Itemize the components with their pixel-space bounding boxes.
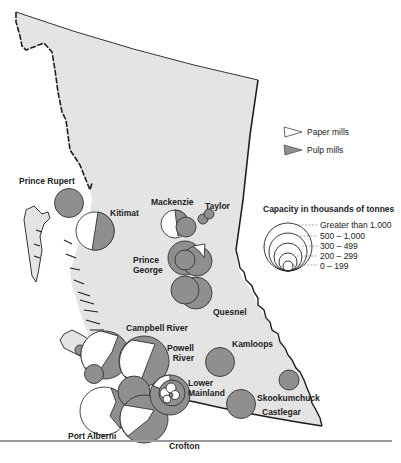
mill-skookumchuck <box>279 370 299 390</box>
mill-prince-george <box>175 250 195 270</box>
label-mackenzie: Mackenzie <box>151 197 194 207</box>
mill-kamloops <box>206 348 235 377</box>
label-lower-mainland-line2: Mainland <box>188 388 225 398</box>
label-prince-george-line1: Prince <box>133 255 163 265</box>
label-castlegar: Castlegar <box>262 407 301 417</box>
capacity-class-4: 200 – 299 <box>320 251 358 261</box>
label-prince-rupert: Prince Rupert <box>19 176 75 186</box>
label-powell-river-line1: Powell <box>167 343 194 353</box>
legend-pulp-mills: Pulp mills <box>307 145 343 155</box>
label-lower-mainland-line1: Lower <box>188 378 225 388</box>
bottom-rule <box>0 440 392 442</box>
mill-prince-rupert <box>55 189 84 218</box>
label-campbell-river: Campbell River <box>126 323 188 333</box>
label-prince-george-line2: George <box>133 265 163 275</box>
legend-paper-mills: Paper mills <box>307 127 349 137</box>
label-skookumchuck: Skookumchuck <box>257 393 320 403</box>
label-lower-mainland: Lower Mainland <box>188 378 225 398</box>
paper-mill-triangle-icon <box>284 127 302 137</box>
label-kitimat: Kitimat <box>110 208 139 218</box>
mill-quesnel <box>171 276 199 304</box>
mill-mackenzie <box>176 217 196 237</box>
label-powell-river-line2: River <box>167 353 194 363</box>
label-prince-george: Prince George <box>133 255 163 275</box>
label-quesnel: Quesnel <box>213 307 247 317</box>
capacity-class-2: 500 – 1,000 <box>320 231 365 241</box>
haida-gwaii <box>24 206 50 282</box>
label-kamloops: Kamloops <box>232 339 273 349</box>
capacity-class-3: 300 – 499 <box>320 241 358 251</box>
capacity-class-5: 0 – 199 <box>320 261 348 271</box>
label-powell-river: Powell River <box>167 343 194 363</box>
mill-castlegar <box>227 390 256 419</box>
label-crofton: Crofton <box>169 441 200 451</box>
label-taylor: Taylor <box>205 201 230 211</box>
capacity-legend-circles <box>264 223 312 271</box>
capacity-legend-title: Capacity in thousands of tonnes <box>263 204 394 214</box>
capacity-class-1: Greater than 1,000 <box>320 220 391 230</box>
pulp-mill-triangle-icon <box>284 145 302 155</box>
